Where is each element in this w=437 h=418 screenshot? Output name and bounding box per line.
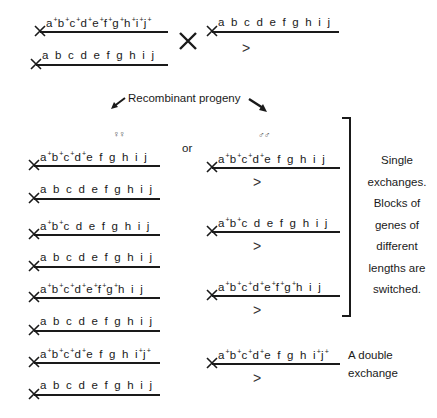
chromosome-line <box>34 330 160 332</box>
male-progeny-chromosome: a+b+c d e f g h i j <box>206 216 340 238</box>
double-exchange-description: A double exchange <box>348 346 398 382</box>
x-chromosome-icon <box>206 357 218 369</box>
x-chromosome-icon <box>28 260 40 272</box>
x-chromosome-icon <box>28 388 40 400</box>
chromosome-line <box>34 165 160 167</box>
arrow-right-icon <box>248 97 268 113</box>
x-chromosome-icon <box>28 356 40 368</box>
chromosome-line <box>34 198 160 200</box>
x-chromosome-icon <box>206 225 218 237</box>
gene-sequence: a+b+c d e f g h i j <box>218 216 329 229</box>
y-chromosome-marker: > <box>253 302 261 318</box>
cross-symbol-icon <box>178 31 198 51</box>
x-chromosome-icon <box>28 192 40 204</box>
gene-sequence: a b c d e f g h i j <box>42 49 155 61</box>
desc-line: exchanges. <box>357 172 437 194</box>
parent-male-chromosome: a b c d e f g h i j <box>206 16 339 38</box>
desc-line: Single <box>357 150 437 172</box>
x-chromosome-icon <box>28 324 40 336</box>
chromosome-line <box>34 297 160 299</box>
parent-female-chromosome-wildtype: a+b+c+d+e+f+g+h+i+j+ <box>34 16 168 38</box>
desc-line: genes of <box>357 215 437 237</box>
desc-line: different <box>357 236 437 258</box>
chromosome-line <box>36 64 168 66</box>
x-chromosome-icon <box>206 289 218 301</box>
male-progeny-chromosome: a+b+c+d+e f g h i j <box>206 152 340 174</box>
x-chromosome-icon <box>28 159 40 171</box>
gene-sequence: a+b+c+d+e+f+g+h i j <box>218 280 322 293</box>
y-chromosome-marker: > <box>242 40 250 56</box>
male-progeny-chromosome: a+b+c+d+e+f+g+h i j <box>206 280 340 302</box>
gene-sequence: a b c d e f g h i j <box>40 379 153 391</box>
x-chromosome-icon <box>34 25 46 37</box>
x-chromosome-icon <box>28 228 40 240</box>
female-progeny-chromosome-mutant: a b c d e f g h i j <box>28 315 160 337</box>
female-progeny-chromosome-recombinant: a+b+c+d+e+f+g+h i j <box>28 282 160 304</box>
x-chromosome-icon <box>206 161 218 173</box>
gene-sequence: a+b+c+d+e f g h i j <box>218 152 326 165</box>
y-chromosome-marker: > <box>253 238 261 254</box>
gene-sequence: a+b+c+d+e f g h i j <box>40 150 148 163</box>
female-progeny-chromosome-recombinant: a+b+c+d+e f g h i+j+ <box>28 347 160 369</box>
female-progeny-chromosome-recombinant: a+b+c d e f g h i j <box>28 219 160 241</box>
gene-sequence: a+b+c+d+e f g h i+j+ <box>40 347 151 360</box>
parent-female-chromosome-mutant: a b c d e f g h i j <box>30 49 168 71</box>
arrow-left-icon <box>110 96 126 110</box>
chromosome-line <box>212 167 340 169</box>
gene-sequence: a b c d e f g h i j <box>40 183 153 195</box>
chromosome-line <box>34 394 160 396</box>
x-chromosome-icon <box>206 25 218 37</box>
gene-sequence: a+b+c+d+e+f+g+h+i+j+ <box>46 16 151 29</box>
gene-sequence: a b c d e f g h i j <box>218 16 331 28</box>
desc-line: Blocks of <box>357 193 437 215</box>
desc-line: A double <box>348 346 398 364</box>
gene-sequence: a+b+c+d+e+f+g+h i j <box>40 282 144 295</box>
x-chromosome-icon <box>28 291 40 303</box>
males-symbol: ♂♂ <box>258 130 270 140</box>
recombinant-progeny-label: Recombinant progeny <box>128 92 241 104</box>
gene-sequence: a b c d e f g h i j <box>40 251 153 263</box>
chromosome-line <box>40 31 168 33</box>
x-chromosome-icon <box>30 58 42 70</box>
desc-line: exchange <box>348 364 398 382</box>
gene-sequence: a+b+c d e f g h i j <box>40 219 151 232</box>
single-exchange-description: Single exchanges. Blocks of genes of dif… <box>357 150 437 301</box>
chromosome-line <box>34 362 160 364</box>
female-progeny-chromosome-mutant: a b c d e f g h i j <box>28 251 160 273</box>
chromosome-line <box>212 231 340 233</box>
y-chromosome-marker: > <box>253 174 261 190</box>
females-symbol: ♀♀ <box>113 129 125 139</box>
desc-line: switched. <box>357 279 437 301</box>
single-exchange-bracket <box>342 117 351 317</box>
female-progeny-chromosome-recombinant: a+b+c+d+e f g h i j <box>28 150 160 172</box>
chromosome-line <box>212 31 339 33</box>
gene-sequence: a+b+c+d+e f g h i+j+ <box>218 348 329 361</box>
or-label: or <box>182 142 192 154</box>
desc-line: lengths are <box>357 258 437 280</box>
female-progeny-chromosome-mutant: a b c d e f g h i j <box>28 379 160 401</box>
female-progeny-chromosome-mutant: a b c d e f g h i j <box>28 183 160 205</box>
y-chromosome-marker: > <box>253 370 261 386</box>
chromosome-line <box>34 266 160 268</box>
chromosome-line <box>212 295 340 297</box>
chromosome-line <box>212 363 340 365</box>
gene-sequence: a b c d e f g h i j <box>40 315 153 327</box>
male-progeny-chromosome: a+b+c+d+e f g h i+j+ <box>206 348 340 370</box>
chromosome-line <box>34 234 160 236</box>
